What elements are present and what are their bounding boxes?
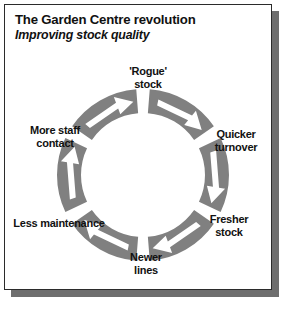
cycle-label-newer-lines: Newer lines — [130, 251, 162, 276]
cycle-label-quicker-turnover: Quicker turnover — [215, 128, 258, 153]
cycle-label-rogue-stock: 'Rogue' stock — [129, 65, 167, 90]
cycle-label-more-staff-contact: More staff contact — [30, 124, 80, 149]
cycle-label-less-maintenance: Less maintenance — [13, 217, 104, 230]
figure-root: The Garden Centre revolution Improving s… — [0, 0, 284, 312]
cycle-label-fresher-stock: Fresher stock — [202, 213, 257, 238]
